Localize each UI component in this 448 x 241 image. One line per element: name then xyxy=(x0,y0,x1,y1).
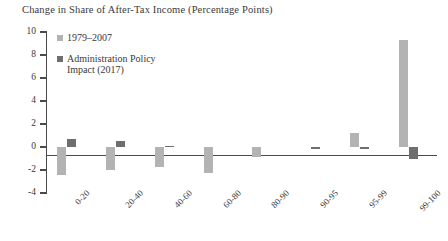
y-axis-tick xyxy=(40,169,47,170)
y-axis-tick xyxy=(40,146,47,147)
bar-60-80-series0 xyxy=(204,147,213,173)
bar-95-99-series0 xyxy=(350,133,359,147)
bar-20-40-series0 xyxy=(106,147,115,170)
y-axis-tick-label: 2 xyxy=(0,118,36,128)
legend-label: Administration Policy Impact (2017) xyxy=(67,53,177,76)
legend-label: 1979–2007 xyxy=(67,32,112,44)
bar-99-100-series0 xyxy=(399,40,408,147)
chart-container: Change in Share of After-Tax Income (Per… xyxy=(0,0,448,241)
y-axis-tick-label: 4 xyxy=(0,95,36,105)
legend-item[interactable]: 1979–2007 xyxy=(57,32,177,44)
y-axis-tick xyxy=(40,77,47,78)
y-axis-tick xyxy=(40,54,47,55)
bar-0-20-series1 xyxy=(67,139,76,147)
bar-0-20-series0 xyxy=(57,147,66,175)
bar-90-95-series1 xyxy=(311,147,320,149)
bar-20-40-series1 xyxy=(116,141,125,147)
y-axis-tick-label: -2 xyxy=(0,164,36,174)
y-axis-tick-label: 8 xyxy=(0,49,36,59)
bar-40-60-series1 xyxy=(165,146,174,147)
bar-40-60-series0 xyxy=(155,147,164,167)
y-axis-tick xyxy=(40,123,47,124)
y-axis-tick-label: 6 xyxy=(0,72,36,82)
bar-99-100-series1 xyxy=(409,147,418,159)
y-axis-tick-label: -4 xyxy=(0,187,36,197)
legend-swatch-icon xyxy=(57,35,63,41)
y-axis-tick-label: 10 xyxy=(0,26,36,36)
y-axis-tick xyxy=(40,31,47,32)
y-axis-tick xyxy=(40,100,47,101)
y-axis-tick-label: 0 xyxy=(0,141,36,151)
legend-item[interactable]: Administration Policy Impact (2017) xyxy=(57,53,177,76)
chart-title: Change in Share of After-Tax Income (Per… xyxy=(22,4,273,15)
chart-legend: 1979–2007Administration Policy Impact (2… xyxy=(57,32,177,85)
legend-swatch-icon xyxy=(57,56,63,62)
bar-80-90-series0 xyxy=(252,147,261,157)
bar-95-99-series1 xyxy=(360,147,369,149)
y-axis-tick xyxy=(40,192,47,193)
